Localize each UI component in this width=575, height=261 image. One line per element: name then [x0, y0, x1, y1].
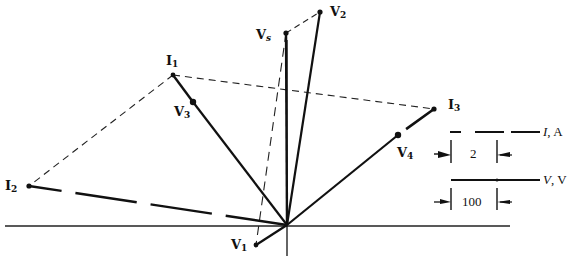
- legend-voltage-value: 100: [462, 195, 482, 208]
- construction-line-i1-i2: [29, 75, 173, 186]
- phasor-v1: [256, 225, 287, 245]
- phasor-v2: [287, 12, 320, 225]
- tip-dot-i2: [26, 183, 31, 188]
- label-i1: I1: [166, 54, 178, 69]
- tip-dot-vs: [283, 30, 288, 35]
- phasor-i1: [173, 75, 193, 102]
- tip-dot-i1: [171, 73, 176, 78]
- label-i2: I2: [5, 179, 17, 194]
- phasor-v4: [287, 135, 398, 225]
- phasor-i3: [398, 109, 434, 135]
- label-v4: V4: [397, 146, 413, 161]
- phasor-i2: [29, 186, 287, 225]
- construction-line-vs-v2: [286, 12, 320, 33]
- tip-dot-v1: [254, 243, 259, 248]
- label-v1: V1: [231, 238, 247, 253]
- construction-line-i1-i3: [173, 75, 434, 109]
- phasor-diagram: [0, 0, 575, 261]
- tip-dot-v4: [395, 132, 401, 138]
- tip-dot-v3: [190, 99, 196, 105]
- legend-current-value: 2: [470, 147, 477, 160]
- legend-current-axis-label: I, A: [543, 125, 563, 138]
- label-v2: V2: [330, 5, 346, 20]
- legend-current-scale: [434, 132, 540, 163]
- legend-voltage-axis-label: V, V: [543, 173, 567, 186]
- label-vs: Vs: [256, 28, 271, 43]
- legend-voltage-scale: [434, 179, 540, 211]
- phasor-v3: [193, 102, 287, 225]
- tip-dot-v2: [317, 9, 322, 14]
- tip-dot-i3: [431, 106, 436, 111]
- phasor-vs: [286, 33, 287, 225]
- construction-line-vs-v1: [256, 33, 286, 245]
- label-v3: V3: [174, 105, 190, 120]
- label-i3: I3: [448, 98, 460, 113]
